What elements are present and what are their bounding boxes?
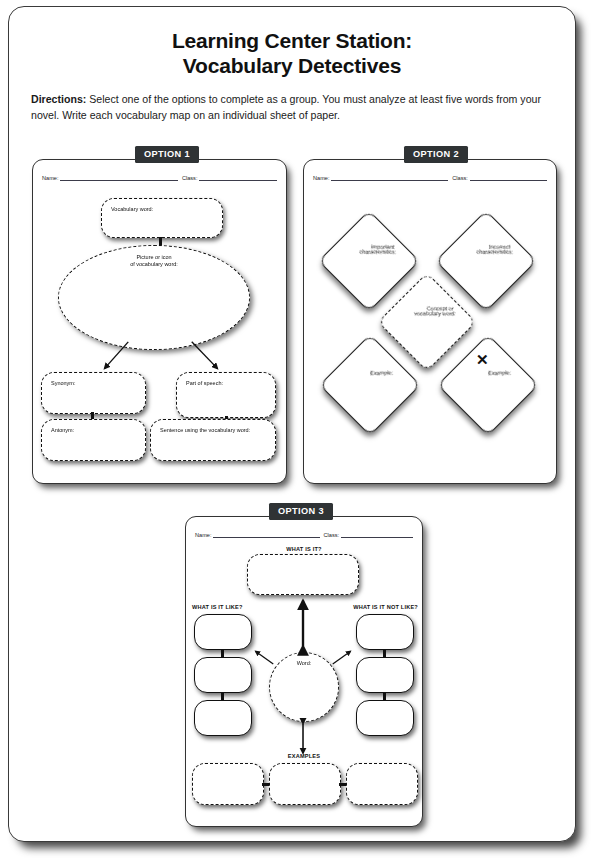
class-rule[interactable] [199,172,277,181]
what-is-it-box[interactable] [247,554,359,595]
title-line-1: Learning Center Station: [172,29,412,52]
option-2-panel: Name: Class: Important characteristics: … [303,159,557,484]
examples-heading: EXAMPLES [186,753,422,760]
option-2-nameline: Name: Class: [313,169,547,181]
example-right-label: Example: [465,370,535,377]
class-rule[interactable] [470,172,547,181]
part-of-speech-label: Part of speech: [186,380,223,387]
directions-paragraph: Directions: Select one of the options to… [31,91,553,123]
important-label-line-2: characteristics: [343,249,413,256]
directions-text: Select one of the options to complete as… [31,93,541,121]
like-box-3[interactable] [194,700,252,736]
example-box-2[interactable] [269,763,341,805]
antonym-label: Antonym: [51,427,74,434]
option-1-badge: OPTION 1 [135,146,199,163]
name-label: Name: [195,532,213,538]
incorrect-label-line-2: characteristics: [460,249,530,256]
example-box-3[interactable] [346,763,418,805]
not-like-box-2[interactable] [356,657,414,693]
antonym-box[interactable]: Antonym: [41,419,146,461]
title-line-2: Vocabulary Detectives [49,54,535,79]
example-left-label: Example: [347,370,417,377]
what-is-it-heading: WHAT IS IT? [186,546,422,553]
class-label: Class: [178,175,200,181]
what-is-it-like-heading: WHAT IS IT LIKE? [192,604,243,611]
picture-icon-ellipse[interactable]: Picture or icon of vocabulary word: [58,245,250,350]
vocabulary-word-box[interactable]: Vocabulary word: [101,198,223,238]
worksheet-page: Learning Center Station: Vocabulary Dete… [8,6,576,842]
name-rule[interactable] [213,529,319,538]
what-is-it-not-like-heading: WHAT IS IT NOT LIKE? [353,604,418,611]
option-3-badge: OPTION 3 [269,503,333,520]
option-2-badge: OPTION 2 [404,146,468,163]
concept-label-line-2: vocabulary word: [401,310,469,317]
vocabulary-word-label: Vocabulary word: [111,206,153,213]
page-title: Learning Center Station: Vocabulary Dete… [9,7,575,79]
name-label: Name: [42,175,60,181]
option-1-panel: Name: Class: Vocabulary word: Picture or… [32,159,287,484]
option-3-nameline: Name: Class: [195,526,413,538]
option-3-panel: Name: Class: WHAT IS IT? WHAT IS IT LIKE… [185,516,423,827]
picture-label-line-2: of vocabulary word: [59,261,249,268]
not-like-box-3[interactable] [356,700,414,736]
like-box-1[interactable] [194,614,252,650]
name-rule[interactable] [60,172,177,181]
synonym-label: Synonym: [51,380,75,387]
like-box-2[interactable] [194,657,252,693]
not-like-box-1[interactable] [356,614,414,650]
scan-artifact-x-mark: ✕ [476,352,489,367]
synonym-box[interactable]: Synonym: [41,372,146,414]
example-right-diamond[interactable]: Example: [437,334,539,436]
example-box-1[interactable] [192,763,264,805]
word-label: Word: [270,660,338,667]
class-label: Class: [448,175,470,181]
option-1-nameline: Name: Class: [42,169,277,181]
class-rule[interactable] [341,529,413,538]
part-of-speech-box[interactable]: Part of speech: [176,372,276,418]
name-rule[interactable] [331,172,448,181]
class-label: Class: [320,532,342,538]
word-circle[interactable]: Word: [269,652,339,722]
directions-label: Directions: [31,93,86,105]
sentence-box[interactable]: Sentence using the vocabulary word: [150,419,276,461]
picture-label-line-1: Picture or icon [59,254,249,261]
sentence-label: Sentence using the vocabulary word: [160,427,250,434]
name-label: Name: [313,175,331,181]
